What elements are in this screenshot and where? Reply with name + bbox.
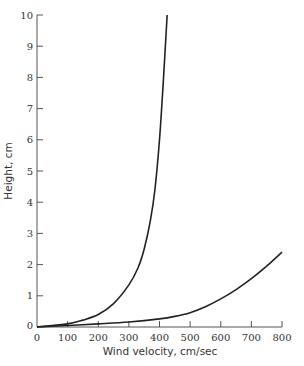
- axes: [37, 15, 282, 327]
- y-tick-label: 2: [27, 259, 33, 270]
- y-tick-label: 7: [27, 103, 33, 114]
- x-tick-label: 800: [272, 332, 291, 343]
- y-tick-label: 3: [27, 228, 33, 239]
- x-axis-title: Wind velocity, cm/sec: [103, 345, 218, 357]
- x-tick-label: 400: [150, 332, 169, 343]
- series-line-curve-gradual: [37, 252, 282, 327]
- y-tick-label: 9: [27, 41, 33, 52]
- x-tick-label: 500: [181, 332, 200, 343]
- y-tick-label: 5: [27, 166, 33, 177]
- y-axis-title: Height, cm: [2, 142, 14, 199]
- series: [37, 15, 282, 327]
- y-tick-label: 10: [20, 10, 33, 21]
- x-tick-label: 0: [34, 332, 40, 343]
- y-tick-label: 8: [27, 72, 33, 83]
- series-line-curve-steep: [37, 15, 167, 327]
- y-tick-label: 1: [27, 290, 33, 301]
- x-tick-label: 700: [242, 332, 261, 343]
- chart: 0100200300400500600700800012345678910 Wi…: [0, 0, 304, 366]
- y-tick-label: 4: [27, 197, 33, 208]
- x-tick-label: 200: [89, 332, 108, 343]
- x-tick-label: 600: [211, 332, 230, 343]
- x-tick-label: 100: [58, 332, 77, 343]
- y-tick-label: 6: [27, 134, 33, 145]
- y-tick-label: 0: [27, 320, 33, 331]
- x-tick-label: 300: [119, 332, 138, 343]
